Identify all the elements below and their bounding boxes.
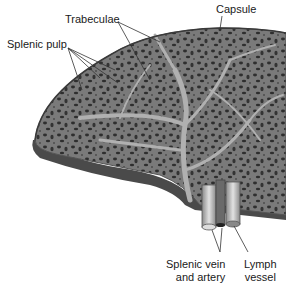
label-trabeculae: Trabeculae — [65, 13, 120, 26]
label-splenic-vein-line2: and artery — [166, 271, 225, 284]
label-lymph-vessel: Lymph vessel — [244, 258, 277, 284]
label-splenic-pulp: Splenic pulp — [7, 38, 67, 51]
label-splenic-vein-artery: Splenic vein and artery — [166, 258, 225, 284]
label-capsule: Capsule — [216, 3, 256, 16]
label-lymph-line2: vessel — [244, 271, 277, 284]
label-lymph-line1: Lymph — [244, 258, 277, 271]
label-splenic-vein-line1: Splenic vein — [166, 258, 225, 271]
splenic-vessels — [202, 180, 240, 230]
